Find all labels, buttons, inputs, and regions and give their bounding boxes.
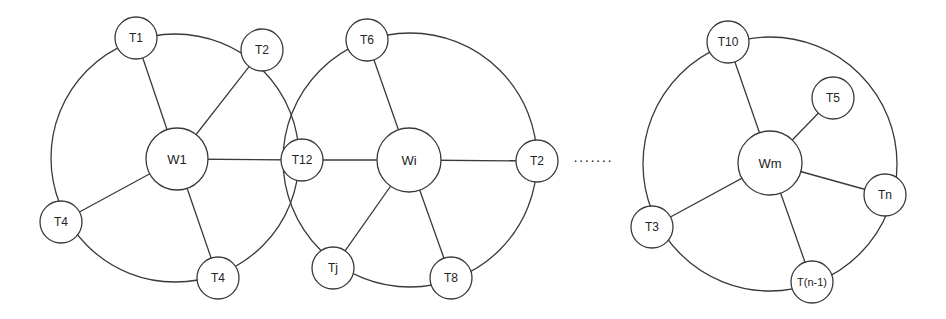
terminal-node: Tn <box>864 174 906 216</box>
terminal-label: T4 <box>54 215 68 229</box>
terminal-label: T2 <box>530 154 544 168</box>
terminal-node-shared: T12 <box>281 139 323 181</box>
terminal-node: T1 <box>115 17 157 59</box>
terminal-label: T12 <box>292 153 313 167</box>
hub-node-w1: W1 <box>146 128 208 190</box>
terminal-label: T4 <box>211 271 225 285</box>
terminal-label: T(n-1) <box>797 276 827 288</box>
terminal-node: T5 <box>812 77 854 119</box>
terminal-label: T3 <box>645 220 659 234</box>
terminal-label: T10 <box>718 35 739 49</box>
terminal-node: T4 <box>197 257 239 299</box>
terminal-label: T2 <box>255 43 269 57</box>
hub-label: Wi <box>401 153 416 168</box>
terminal-node: T6 <box>346 19 388 61</box>
terminal-label: T8 <box>444 271 458 285</box>
terminal-node: T4 <box>40 201 82 243</box>
hub-label: W1 <box>167 152 187 167</box>
hub-node-wi: Wi <box>377 128 441 192</box>
terminal-label: T1 <box>129 31 143 45</box>
terminal-label: T5 <box>826 91 840 105</box>
terminal-label: Tn <box>878 188 892 202</box>
terminal-node: T3 <box>631 206 673 248</box>
hub-label: Wm <box>758 156 781 171</box>
hub-node-wm: Wm <box>738 131 802 195</box>
terminal-label: Tj <box>328 261 338 275</box>
ellipsis: ······· <box>573 152 613 168</box>
terminal-node: T10 <box>707 21 749 63</box>
network-diagram: W1 Wi Wm T1 T2 T4 T4 T12 T6 T2 T8 <box>0 0 946 319</box>
terminal-label: T6 <box>360 33 374 47</box>
terminal-node: T2 <box>516 140 558 182</box>
terminal-node: T2 <box>241 29 283 71</box>
terminal-node: Tj <box>312 247 354 289</box>
terminal-node: T(n-1) <box>791 261 833 303</box>
terminal-node: T8 <box>430 257 472 299</box>
